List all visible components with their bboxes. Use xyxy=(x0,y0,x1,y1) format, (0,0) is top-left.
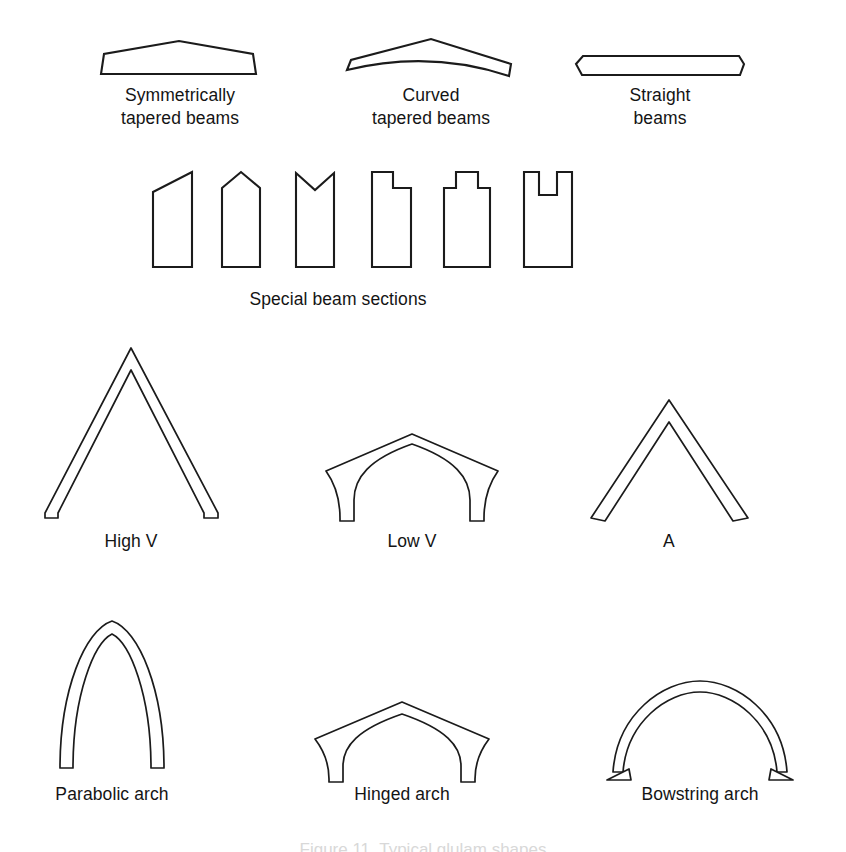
straight-beam-shape xyxy=(576,56,744,75)
bowstring-arch-shape xyxy=(613,681,787,772)
caption-symmetrically-tapered-beams: Symmetrically tapered beams xyxy=(82,84,278,130)
caption-a-frame: A xyxy=(574,530,764,552)
section-v-notch-shape xyxy=(296,173,334,267)
high-v-frame-shape xyxy=(45,348,218,518)
section-stepped-shoulder-shape xyxy=(372,172,411,267)
caption-curved-tapered-beams: Curved tapered beams xyxy=(333,84,529,130)
symmetrically-tapered-beam-shape xyxy=(101,41,256,74)
section-gabled-peak-shape xyxy=(222,172,260,267)
section-single-slope-shape xyxy=(153,172,192,267)
caption-special-beam-sections: Special beam sections xyxy=(183,288,493,310)
a-frame-shape xyxy=(591,400,748,521)
parabolic-arch-shape xyxy=(60,621,164,768)
curved-tapered-beam-shape xyxy=(347,39,511,76)
caption-high-v: High V xyxy=(36,530,226,552)
glulam-shapes-figure: Symmetrically tapered beams Curved taper… xyxy=(0,0,846,852)
caption-low-v: Low V xyxy=(317,530,507,552)
caption-bowstring-arch: Bowstring arch xyxy=(605,783,795,805)
caption-straight-beams: Straight beams xyxy=(562,84,758,130)
section-center-slot-shape xyxy=(524,172,572,267)
caption-parabolic-arch: Parabolic arch xyxy=(17,783,207,805)
low-v-frame-shape xyxy=(326,434,498,521)
section-center-tenon-shape xyxy=(444,172,490,267)
figure-number-caption: Figure 11. Typical glulam shapes xyxy=(0,840,846,852)
hinged-arch-shape xyxy=(315,702,489,782)
caption-hinged-arch: Hinged arch xyxy=(307,783,497,805)
